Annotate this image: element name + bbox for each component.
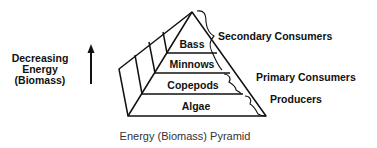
- group-label-producers: Producers: [270, 93, 322, 105]
- diagram-caption: Energy (Biomass) Pyramid: [120, 130, 251, 142]
- arrow-up-icon: [88, 44, 95, 84]
- group-label-secondary-consumers: Secondary Consumers: [218, 30, 333, 42]
- side-divider: [163, 32, 167, 53]
- tier-label-copepods: Copepods: [167, 79, 218, 91]
- tier-label-algae: Algae: [182, 100, 211, 112]
- group-label-primary-consumers: Primary Consumers: [256, 71, 356, 83]
- brace-producers: [245, 96, 266, 116]
- tier-label-minnows: Minnows: [170, 58, 215, 70]
- axis-label: Decreasing Energy (Biomass): [12, 52, 69, 86]
- side-divider: [149, 42, 155, 73]
- energy-pyramid-diagram: Decreasing Energy (Biomass) Bass Minnows…: [0, 0, 377, 148]
- side-divider: [135, 55, 142, 94]
- axis-label-line3: (Biomass): [15, 74, 66, 86]
- tier-label-bass: Bass: [179, 38, 204, 50]
